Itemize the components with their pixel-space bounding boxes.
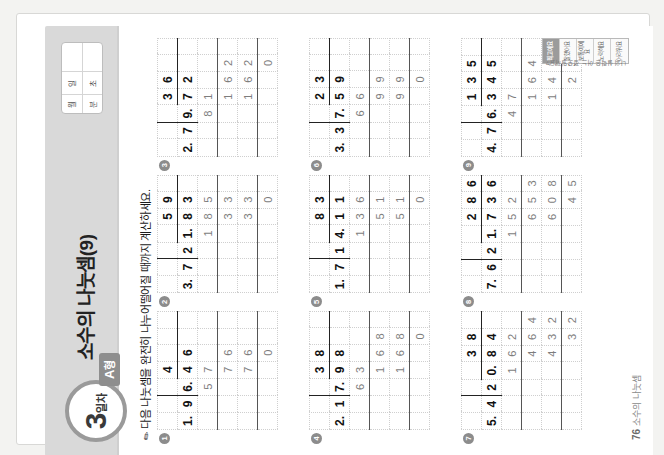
work-digit[interactable]: 1: [502, 225, 522, 242]
answer-cell[interactable]: [370, 55, 390, 71]
answer-cell[interactable]: [158, 105, 178, 122]
answer-cell[interactable]: [310, 378, 330, 395]
answer-cell[interactable]: [238, 276, 258, 293]
answer-cell[interactable]: [390, 412, 410, 429]
work-digit[interactable]: 6: [370, 345, 390, 362]
answer-cell[interactable]: [258, 412, 278, 429]
answer-cell[interactable]: [502, 55, 522, 72]
answer-cell[interactable]: [158, 395, 178, 412]
answer-cell[interactable]: [522, 242, 542, 259]
work-digit[interactable]: 6: [522, 329, 542, 346]
answer-cell[interactable]: [258, 259, 278, 276]
answer-cell[interactable]: [218, 312, 238, 328]
work-digit[interactable]: 6: [350, 88, 370, 105]
answer-cell[interactable]: [390, 139, 410, 156]
answer-cell[interactable]: [310, 396, 330, 413]
answer-cell[interactable]: [258, 71, 278, 88]
work-digit[interactable]: 4: [522, 55, 542, 72]
answer-cell[interactable]: [370, 242, 390, 259]
work-digit[interactable]: 3: [562, 329, 582, 346]
work-digit[interactable]: 5: [562, 175, 582, 192]
answer-cell[interactable]: [238, 378, 258, 395]
work-digit[interactable]: 0: [258, 55, 278, 72]
answer-cell[interactable]: [390, 396, 410, 413]
answer-cell[interactable]: [502, 139, 522, 156]
answer-cell[interactable]: [522, 105, 542, 122]
division-grid[interactable]: 4 1.96.46 57 76 76 0: [157, 311, 278, 430]
answer-cell[interactable]: [462, 412, 482, 429]
answer-cell[interactable]: [258, 328, 278, 344]
answer-cell[interactable]: [198, 39, 218, 55]
answer-cell[interactable]: [562, 412, 582, 429]
work-digit[interactable]: 5: [390, 208, 410, 225]
answer-cell[interactable]: [238, 105, 258, 122]
answer-cell[interactable]: [522, 379, 542, 396]
answer-cell[interactable]: [158, 55, 178, 72]
time-row[interactable]: 분 초: [83, 43, 103, 113]
work-digit[interactable]: 5: [370, 208, 390, 225]
answer-cell[interactable]: [462, 139, 482, 156]
answer-cell[interactable]: [562, 89, 582, 106]
work-digit[interactable]: 6: [542, 209, 562, 226]
answer-cell[interactable]: [562, 259, 582, 276]
answer-cell[interactable]: [370, 105, 390, 122]
work-digit[interactable]: 2: [502, 192, 522, 209]
answer-cell[interactable]: [462, 396, 482, 413]
work-digit[interactable]: 0: [410, 191, 430, 208]
answer-cell[interactable]: [562, 396, 582, 413]
division-grid[interactable]: 2867.621.736 152 653 608 45: [461, 175, 582, 294]
answer-cell[interactable]: [238, 175, 258, 191]
answer-cell[interactable]: [350, 55, 370, 71]
answer-cell[interactable]: [370, 259, 390, 276]
answer-cell[interactable]: [390, 105, 410, 122]
work-digit[interactable]: 1: [238, 88, 258, 105]
work-digit[interactable]: 1: [218, 88, 238, 105]
work-digit[interactable]: 6: [350, 378, 370, 395]
work-digit[interactable]: 4: [562, 192, 582, 209]
answer-cell[interactable]: [310, 259, 330, 276]
work-digit[interactable]: 6: [350, 191, 370, 208]
work-digit[interactable]: 1: [522, 89, 542, 106]
answer-cell[interactable]: [258, 122, 278, 139]
answer-cell[interactable]: [350, 312, 370, 328]
answer-cell[interactable]: [350, 175, 370, 191]
answer-cell[interactable]: [158, 344, 178, 361]
answer-cell[interactable]: [390, 225, 410, 242]
answer-cell[interactable]: [238, 242, 258, 259]
answer-cell[interactable]: [462, 242, 482, 259]
answer-cell[interactable]: [462, 122, 482, 139]
answer-cell[interactable]: [350, 345, 370, 362]
answer-cell[interactable]: [158, 328, 178, 344]
answer-cell[interactable]: [198, 412, 218, 429]
work-digit[interactable]: 4: [542, 72, 562, 89]
answer-cell[interactable]: [310, 312, 330, 328]
self-check-strip[interactable]: 나의 실력은 어느 정도일까요? 최고예요잘했어요보통이에요노력해요어려워요: [542, 38, 629, 64]
answer-cell[interactable]: [502, 242, 522, 259]
answer-cell[interactable]: [258, 225, 278, 242]
answer-cell[interactable]: [522, 396, 542, 413]
division-grid[interactable]: 36 2.79.72 81 162 162 0: [157, 38, 278, 157]
answer-cell[interactable]: [158, 276, 178, 293]
answer-cell[interactable]: [370, 139, 390, 156]
answer-cell[interactable]: [310, 328, 330, 345]
answer-cell[interactable]: [410, 312, 430, 328]
answer-cell[interactable]: [198, 71, 218, 88]
answer-cell[interactable]: [178, 312, 198, 328]
answer-cell[interactable]: [218, 412, 238, 429]
work-digit[interactable]: 3: [350, 362, 370, 379]
work-digit[interactable]: 0: [258, 344, 278, 361]
work-digit[interactable]: 2: [562, 312, 582, 329]
date-time-box[interactable]: 월 일 분 초: [61, 42, 103, 114]
work-digit[interactable]: 4: [502, 105, 522, 122]
answer-cell[interactable]: [350, 71, 370, 88]
work-digit[interactable]: 6: [522, 209, 542, 226]
answer-cell[interactable]: [198, 276, 218, 293]
answer-cell[interactable]: [542, 362, 562, 379]
answer-cell[interactable]: [158, 412, 178, 429]
work-digit[interactable]: 1: [370, 362, 390, 379]
answer-cell[interactable]: [258, 208, 278, 225]
answer-cell[interactable]: [218, 276, 238, 293]
answer-cell[interactable]: [502, 379, 522, 396]
answer-cell[interactable]: [258, 361, 278, 378]
work-digit[interactable]: 7: [238, 361, 258, 378]
